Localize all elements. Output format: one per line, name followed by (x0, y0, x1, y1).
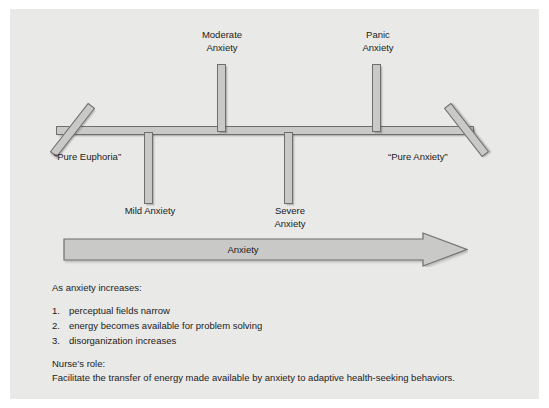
label-moderate-anxiety: Moderate Anxiety (166, 29, 278, 54)
list-item: 1.perceptual fields narrow (52, 304, 472, 318)
nurse-role-body: Facilitate the transfer of energy made a… (52, 371, 472, 385)
label-mild-anxiety: Mild Anxiety (102, 205, 198, 218)
label-pure-euphoria: “Pure Euphoria” (24, 151, 184, 164)
list-item-number: 2. (52, 319, 69, 333)
label-severe-anxiety: Severe Anxiety (242, 205, 338, 230)
label-pure-anxiety: “Pure Anxiety” (388, 151, 528, 164)
list-item-number: 3. (52, 334, 69, 348)
notes-list: 1.perceptual fields narrow 2.energy beco… (52, 304, 472, 348)
continuum-axis-bar (56, 126, 474, 135)
list-item-text: disorganization increases (69, 335, 176, 346)
tick-severe-anxiety (284, 132, 293, 204)
anxiety-continuum-figure: Moderate Anxiety Panic Anxiety Mild Anxi… (10, 9, 539, 399)
anxiety-direction-arrow: Anxiety (63, 232, 468, 267)
notes-block: As anxiety increases: 1.perceptual field… (52, 281, 472, 385)
list-item-text: energy becomes available for problem sol… (69, 320, 262, 331)
list-item: 2.energy becomes available for problem s… (52, 319, 472, 333)
tick-panic-anxiety (372, 64, 381, 132)
tick-mild-anxiety (144, 132, 153, 204)
list-item-text: perceptual fields narrow (69, 305, 170, 316)
nurse-role-heading: Nurse’s role: (52, 357, 472, 371)
list-item: 3.disorganization increases (52, 334, 472, 348)
arrow-label: Anxiety (63, 232, 423, 267)
notes-intro: As anxiety increases: (52, 281, 472, 295)
tick-moderate-anxiety (217, 64, 226, 132)
list-item-number: 1. (52, 304, 69, 318)
label-panic-anxiety: Panic Anxiety (322, 29, 434, 54)
